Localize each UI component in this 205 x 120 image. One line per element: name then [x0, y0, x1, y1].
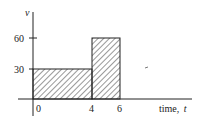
velocity-time-chart: v 60 30 0 4 6 time, t	[0, 0, 205, 120]
x-tick-label-4: 4	[89, 103, 94, 114]
x-tick-label-0: 0	[36, 103, 41, 114]
x-axis-label-var: t	[184, 103, 187, 114]
y-axis-label: v	[25, 7, 30, 18]
y-tick-label-30: 30	[14, 64, 24, 75]
y-tick-label-60: 60	[14, 33, 24, 44]
bar-4-to-6	[92, 38, 120, 99]
x-axis-label: time, t	[159, 103, 187, 114]
bar-0-to-4	[33, 69, 92, 99]
stray-mark	[145, 67, 148, 68]
x-tick-label-6: 6	[117, 103, 122, 114]
x-axis-label-word: time,	[159, 103, 179, 114]
